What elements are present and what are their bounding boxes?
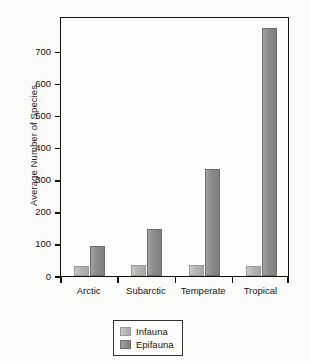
x-axis-label-temperate: Temperate [175,285,232,296]
y-axis-tick-label: 300 [35,174,51,185]
y-axis-tick-label: 400 [35,142,51,153]
x-axis-tick-mark [117,277,119,283]
legend-swatch-infauna [120,327,131,336]
legend-label-epifauna: Epifauna [136,339,174,350]
bar-arctic-epifauna [90,246,105,276]
x-axis-tick-mark [60,277,62,283]
x-axis-label-arctic: Arctic [60,285,117,296]
bar-subarctic-epifauna [147,229,162,276]
x-axis-label-tropical: Tropical [232,285,289,296]
y-axis-tick-label: 700 [35,46,51,57]
y-axis-tick-label: 600 [35,78,51,89]
bar-temperate-epifauna [205,169,220,276]
bar-tropical-infauna [246,266,261,276]
y-axis-tick-label: 500 [35,110,51,121]
bar-tropical-epifauna [262,28,277,276]
legend-label-infauna: Infauna [136,326,168,337]
plot-area [60,17,289,277]
x-axis-label-subarctic: Subarctic [117,285,174,296]
bar-arctic-infauna [74,266,89,276]
y-axis-tick-label: 100 [35,238,51,249]
legend-item-epifauna: Epifauna [120,338,174,351]
x-axis-tick-mark [232,277,234,283]
y-axis-tick-label: 0 [46,271,51,282]
chart-figure: Average Number of Species 01002003004005… [0,0,310,361]
bar-subarctic-infauna [131,265,146,276]
bar-temperate-infauna [189,265,204,276]
legend-item-infauna: Infauna [120,325,174,338]
x-axis-tick-mark [175,277,177,283]
y-axis-tick-label: 200 [35,206,51,217]
legend-swatch-epifauna [120,340,131,349]
chart-legend: Infauna Epifauna [113,320,183,356]
x-axis-tick-mark [287,277,289,283]
